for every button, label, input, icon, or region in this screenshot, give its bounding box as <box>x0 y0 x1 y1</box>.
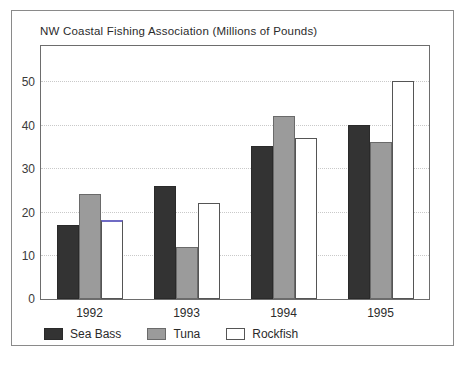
bar-tuna-1994[interactable] <box>273 116 295 299</box>
y-axis-tick-label: 50 <box>22 75 35 89</box>
x-axis-tick-label: 1994 <box>270 306 297 320</box>
legend-swatch-rockfish <box>226 328 245 340</box>
bar-sea-bass-1994[interactable] <box>251 146 273 299</box>
bar-sea-bass-1995[interactable] <box>348 125 370 299</box>
x-axis-tick-label: 1995 <box>367 306 394 320</box>
y-axis-tick-label: 30 <box>22 162 35 176</box>
legend-item-rockfish[interactable]: Rockfish <box>226 327 298 341</box>
legend-swatch-sea-bass <box>44 328 63 340</box>
bar-tuna-1993[interactable] <box>176 247 198 299</box>
bar-tuna-1995[interactable] <box>370 142 392 299</box>
bar-group-1995: 1995 <box>332 46 429 299</box>
bars-layer: 1992199319941995 <box>41 46 429 299</box>
bar-group-1992: 1992 <box>41 46 138 299</box>
legend-item-sea-bass[interactable]: Sea Bass <box>44 327 121 341</box>
bar-group-1994: 1994 <box>235 46 332 299</box>
chart-card: NW Coastal Fishing Association (Millions… <box>11 10 454 346</box>
bar-sea-bass-1993[interactable] <box>154 186 176 299</box>
legend-swatch-tuna <box>147 328 166 340</box>
legend-item-tuna[interactable]: Tuna <box>147 327 200 341</box>
y-axis-tick-label: 10 <box>22 249 35 263</box>
bar-sea-bass-1992[interactable] <box>57 225 79 299</box>
chart-legend: Sea BassTunaRockfish <box>44 327 298 341</box>
bar-rockfish-1993[interactable] <box>198 203 220 299</box>
bar-group-1993: 1993 <box>138 46 235 299</box>
plot-frame: 01020304050 1992199319941995 <box>40 45 430 300</box>
bar-tuna-1992[interactable] <box>79 194 101 299</box>
legend-label: Tuna <box>173 327 200 341</box>
bar-rockfish-1994[interactable] <box>295 138 317 299</box>
legend-label: Rockfish <box>252 327 298 341</box>
bar-rockfish-1995[interactable] <box>392 81 414 299</box>
y-axis-tick-label: 0 <box>28 292 35 306</box>
y-axis-tick-label: 40 <box>22 119 35 133</box>
legend-label: Sea Bass <box>70 327 121 341</box>
chart-title: NW Coastal Fishing Association (Millions… <box>40 25 317 37</box>
y-axis-tick-label: 20 <box>22 206 35 220</box>
x-axis-tick-label: 1992 <box>76 306 103 320</box>
x-axis-tick-label: 1993 <box>173 306 200 320</box>
bar-rockfish-1992[interactable] <box>101 220 123 299</box>
